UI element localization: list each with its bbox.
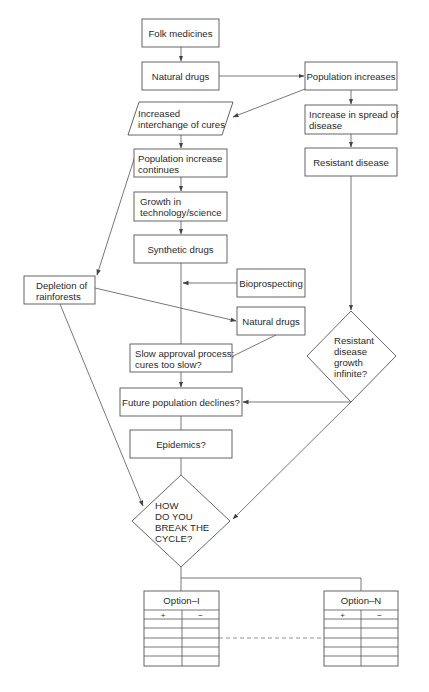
node-label-line-1: Resistant <box>334 335 374 346</box>
node-label-line-3: growth <box>334 357 363 368</box>
node-synthetic-drugs: Synthetic drugs <box>134 235 227 263</box>
node-label-line-1: Slow approval process; <box>135 348 234 359</box>
node-label-line-1: Growth in <box>140 196 181 207</box>
node-label-line-1: Depletion of <box>36 280 88 291</box>
node-label: Synthetic drugs <box>147 244 213 255</box>
node-depletion-rainforests: Depletion of rainforests <box>24 276 95 304</box>
flowchart-canvas: Folk medicines Natural drugs Population … <box>0 0 429 692</box>
line-natural2-to-slow <box>233 335 276 356</box>
arrow-depletion-to-natural2 <box>95 288 236 321</box>
node-future-population: Future population declines? <box>120 388 242 416</box>
node-label-line-2: interchange of cures <box>138 119 225 130</box>
pros-header: + <box>161 611 166 620</box>
node-label-line-2: disease <box>309 120 342 131</box>
node-label: Natural drugs <box>152 71 210 82</box>
node-label-line-1: Increased <box>138 108 180 119</box>
option-table-i: Option–I + − <box>144 591 219 666</box>
node-population-increases: Population increases <box>305 62 397 90</box>
node-label-line-2: rainforests <box>36 291 81 302</box>
node-label-line-4: infinite? <box>334 368 367 379</box>
node-label: Future population declines? <box>122 397 240 408</box>
node-label-line-2: disease <box>334 346 367 357</box>
node-label: Natural drugs <box>242 316 300 327</box>
node-slow-approval: Slow approval process; cures too slow? <box>130 344 234 372</box>
node-resistant-growth-decision: Resistant disease growth infinite? <box>307 311 396 402</box>
node-label-line-3: BREAK THE <box>155 522 209 533</box>
node-increased-interchange: Increased interchange of cures <box>128 102 233 135</box>
node-label-line-1: HOW <box>155 500 179 511</box>
node-label: Resistant disease <box>313 157 389 168</box>
arrow-continues-to-depletion <box>97 156 135 275</box>
node-label: Epidemics? <box>156 439 206 450</box>
option-table-n: Option–N + − <box>324 591 398 666</box>
node-label-line-2: continues <box>138 164 179 175</box>
cons-header: − <box>198 611 203 620</box>
node-label-line-2: cures too slow? <box>135 359 202 370</box>
node-bioprospecting: Bioprospecting <box>237 269 305 297</box>
option-title: Option–I <box>163 595 199 606</box>
node-label: Folk medicines <box>149 28 213 39</box>
node-break-cycle-decision: HOW DO YOU BREAK THE CYCLE? <box>132 475 230 567</box>
node-resistant-disease: Resistant disease <box>305 148 397 176</box>
node-label: Population increases <box>306 71 395 82</box>
node-label: Bioprospecting <box>239 278 302 289</box>
node-label-line-2: technology/science <box>140 207 222 218</box>
node-label-line-4: CYCLE? <box>155 533 192 544</box>
arrow-diamond-to-cycle <box>233 402 351 519</box>
node-natural-drugs-2: Natural drugs <box>237 307 305 335</box>
cons-header: − <box>377 611 382 620</box>
node-label-line-1: Increase in spread of <box>309 109 399 120</box>
node-label-line-2: DO YOU <box>155 511 193 522</box>
node-epidemics: Epidemics? <box>130 430 232 458</box>
node-population-continues: Population increase continues <box>134 149 227 177</box>
option-title: Option–N <box>341 595 382 606</box>
node-folk-medicines: Folk medicines <box>142 19 219 47</box>
arrow-population-to-interchange <box>233 89 305 117</box>
connectors <box>60 47 361 638</box>
node-natural-drugs-1: Natural drugs <box>142 62 219 90</box>
node-increase-spread: Increase in spread of disease <box>305 105 399 134</box>
pros-header: + <box>340 611 345 620</box>
line-cycle-to-option-n <box>181 578 361 591</box>
node-label-line-1: Population increase <box>138 153 222 164</box>
node-growth-technology: Growth in technology/science <box>134 192 227 221</box>
